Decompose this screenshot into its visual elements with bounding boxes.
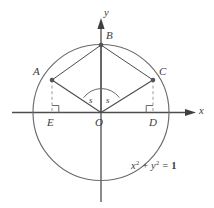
- angle-label-right: s: [106, 96, 110, 105]
- geometry-figure: y x A B C D E O s s x2 + y2 = 1: [0, 0, 214, 208]
- right-angle-marker-E: [52, 106, 59, 113]
- right-angle-marker-D: [146, 106, 153, 113]
- point-label-B: B: [106, 30, 113, 41]
- y-axis-arrow-icon: [97, 18, 104, 29]
- segment-OA: [52, 80, 101, 113]
- point-marker-A: [50, 78, 55, 83]
- x-axis-label: x: [199, 106, 204, 117]
- segment-AB: [52, 45, 101, 80]
- point-marker-C: [151, 78, 156, 83]
- point-label-D: D: [149, 117, 157, 128]
- point-label-E: E: [47, 117, 54, 128]
- equation-value: 1: [171, 160, 176, 171]
- angle-arc-right: [101, 89, 119, 98]
- point-marker-B: [99, 43, 104, 48]
- y-axis-label: y: [104, 8, 109, 19]
- point-label-A: A: [33, 66, 40, 77]
- origin-label-O: O: [95, 117, 103, 128]
- x-axis-arrow-icon: [185, 109, 196, 116]
- angle-label-left: s: [89, 96, 93, 105]
- point-label-C: C: [159, 66, 166, 77]
- circle-equation-label: x2 + y2 = 1: [131, 161, 177, 172]
